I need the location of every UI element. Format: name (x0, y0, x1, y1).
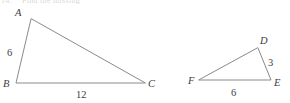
side-label-de: 3 (268, 57, 273, 68)
vertex-label-c: C (148, 78, 156, 89)
similar-triangles-figure: A B C 6 12 D E F 3 6 (0, 0, 290, 103)
vertex-label-b: B (3, 78, 10, 89)
triangle-abc: A B C 6 12 (3, 7, 156, 100)
vertex-label-e: E (273, 77, 281, 88)
side-label-ab: 6 (7, 47, 12, 58)
side-label-fe: 6 (231, 87, 236, 98)
vertex-label-d: D (259, 35, 268, 46)
diagram-page: 14.Find the missing A B C 6 12 D E F 3 6 (0, 0, 290, 103)
triangle-abc-outline (16, 19, 145, 83)
triangle-def-outline (199, 48, 271, 80)
vertex-label-a: A (14, 7, 22, 18)
vertex-label-f: F (187, 75, 195, 86)
side-label-bc: 12 (76, 89, 87, 100)
triangle-def: D E F 3 6 (187, 35, 281, 98)
